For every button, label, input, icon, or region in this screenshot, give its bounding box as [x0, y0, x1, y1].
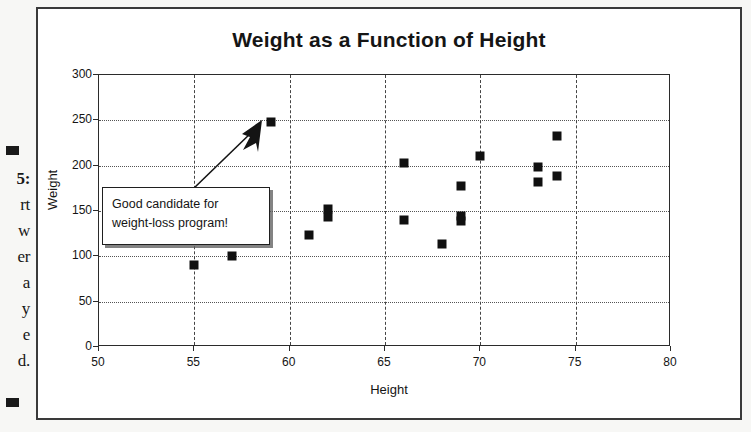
margin-text-fragment-7: d.: [0, 352, 30, 369]
data-point: [304, 231, 313, 240]
x-tick-mark-70: [479, 346, 480, 351]
x-tick-mark-55: [193, 346, 194, 351]
gridline-y-250: [99, 120, 669, 121]
y-tick-label-200: 200: [48, 158, 92, 172]
y-tick-label-150: 150: [48, 203, 92, 217]
x-tick-mark-75: [575, 346, 576, 351]
y-tick-label-300: 300: [48, 67, 92, 81]
x-tick-mark-80: [670, 346, 671, 351]
data-point: [552, 171, 561, 180]
data-point: [266, 118, 275, 127]
x-tick-mark-65: [384, 346, 385, 351]
margin-text-fragment-0: 5:: [0, 170, 30, 187]
x-tick-label-50: 50: [78, 355, 118, 369]
margin-text-fragment-1: rt: [0, 196, 30, 213]
y-tick-label-250: 250: [48, 112, 92, 126]
y-tick-label-0: 0: [48, 339, 92, 353]
data-point: [457, 216, 466, 225]
margin-text-fragment-6: e: [0, 326, 30, 343]
x-axis-title: Height: [38, 382, 740, 397]
margin-text-fragment-3: er: [0, 248, 30, 265]
data-point: [228, 252, 237, 261]
data-point: [533, 177, 542, 186]
gridline-x-60: [290, 75, 291, 345]
data-point: [190, 261, 199, 270]
callout-line-2: weight-loss program!: [112, 214, 269, 233]
data-point: [552, 131, 561, 140]
figure-frame: Weight as a Function of Height Weight He…: [36, 7, 742, 420]
data-point: [457, 181, 466, 190]
margin-text-fragment-4: a: [0, 274, 30, 291]
margin-bullet-1: [6, 398, 19, 407]
data-point: [533, 163, 542, 172]
gridline-x-65: [385, 75, 386, 345]
gridline-y-100: [99, 256, 669, 257]
callout-line-1: Good candidate for: [112, 195, 269, 214]
gridline-y-50: [99, 302, 669, 303]
data-point: [438, 239, 447, 248]
margin-text-fragment-5: y: [0, 300, 30, 317]
margin-text-fragment-2: w: [0, 222, 30, 239]
margin-bullet-0: [6, 146, 19, 155]
data-point: [323, 213, 332, 222]
data-point: [476, 151, 485, 160]
x-tick-label-75: 75: [555, 355, 595, 369]
gridline-x-75: [576, 75, 577, 345]
x-tick-label-65: 65: [364, 355, 404, 369]
x-tick-label-70: 70: [459, 355, 499, 369]
gridline-x-70: [480, 75, 481, 345]
page-margin-column: 5:rtwerayed.: [0, 0, 34, 432]
x-tick-mark-50: [98, 346, 99, 351]
x-tick-label-80: 80: [650, 355, 690, 369]
x-tick-label-60: 60: [269, 355, 309, 369]
chart-title: Weight as a Function of Height: [38, 28, 740, 52]
x-tick-label-55: 55: [173, 355, 213, 369]
gridline-y-200: [99, 166, 669, 167]
y-tick-label-50: 50: [48, 294, 92, 308]
y-tick-label-100: 100: [48, 248, 92, 262]
x-tick-mark-60: [289, 346, 290, 351]
data-point: [400, 216, 409, 225]
data-point: [400, 158, 409, 167]
callout-annotation: Good candidate for weight-loss program!: [102, 187, 270, 245]
